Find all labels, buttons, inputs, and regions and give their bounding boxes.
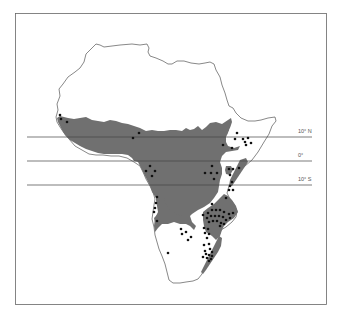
africa-distribution-map: 10° N 0° 10° S <box>0 0 339 319</box>
latitude-label-10s: 10° S <box>298 176 312 182</box>
latitude-label-equator: 0° <box>298 152 303 158</box>
latitude-label-10n: 10° N <box>298 128 312 134</box>
